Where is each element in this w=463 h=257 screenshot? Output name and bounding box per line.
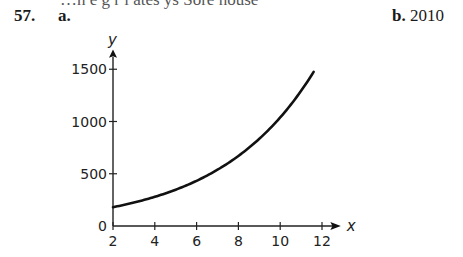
y-tick-label: 500 (80, 166, 107, 182)
x-axis-label: x (346, 217, 356, 235)
x-tick-label: 10 (271, 233, 289, 249)
x-tick-label: 2 (109, 233, 118, 249)
y-tick-label: 0 (98, 218, 107, 234)
y-axis-label: y (107, 31, 118, 49)
y-axis-arrow-icon (109, 49, 117, 57)
y-tick-label: 1500 (71, 61, 107, 77)
x-tick-label: 4 (150, 233, 159, 249)
y-tick-label: 1000 (71, 114, 107, 130)
x-tick-label: 6 (192, 233, 201, 249)
exponential-curve (113, 72, 314, 207)
x-tick-label: 8 (234, 233, 243, 249)
x-tick-label: 12 (313, 233, 331, 249)
exponential-chart: xy24681012050010001500 (0, 0, 463, 257)
